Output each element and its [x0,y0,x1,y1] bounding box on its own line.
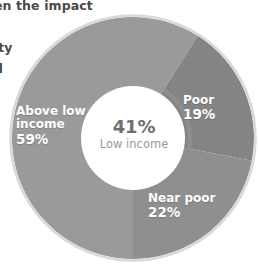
slice-value-poor: 19% [183,107,245,122]
slice-label-above-low-income-line1: Above low [16,105,100,118]
slice-label-poor: Poor 19% [183,94,245,123]
slice-label-near-poor: Near poor 22% [148,192,234,221]
center-annotation: 41% Low income [86,118,182,151]
slice-value-near-poor: 22% [148,205,234,220]
slice-label-near-poor-line1: Near poor [148,192,234,205]
center-caption: Low income [86,138,182,151]
figure-root: en the impact e rty d Above low income 5… [0,0,258,272]
clipped-text-line-4: d [0,61,3,76]
center-value: 41% [86,118,182,137]
slice-label-poor-line1: Poor [183,94,245,107]
